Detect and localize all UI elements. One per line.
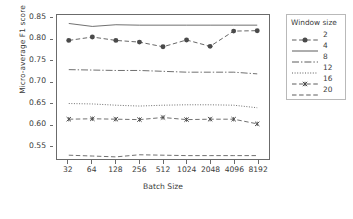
y-tick-mark <box>50 17 54 18</box>
data-point <box>231 29 236 34</box>
data-point <box>137 40 142 45</box>
y-tick: 0.85 <box>0 17 56 18</box>
chart-figure: Micro-average F1 score 0.850.800.750.700… <box>0 0 353 219</box>
data-point <box>90 35 95 40</box>
y-tick: 0.70 <box>0 82 56 83</box>
y-tick: 0.60 <box>0 125 56 126</box>
legend-label: 4 <box>323 41 328 50</box>
legend-swatch-2 <box>290 30 320 40</box>
y-tick-label: 0.70 <box>29 76 46 85</box>
x-tick-mark <box>258 160 259 164</box>
y-tick: 0.75 <box>0 60 56 61</box>
plot-area <box>56 14 270 160</box>
legend-label: 8 <box>323 52 328 61</box>
data-point <box>113 38 118 43</box>
legend-swatch-16 <box>290 74 320 84</box>
plot-lines <box>57 15 269 159</box>
x-tick-mark <box>234 160 235 164</box>
x-tick-mark <box>210 160 211 164</box>
legend-swatch-20 <box>290 85 320 95</box>
y-tick-mark <box>50 39 54 40</box>
series-line-4 <box>69 23 257 26</box>
y-tick-label: 0.85 <box>29 12 46 21</box>
legend-label: 12 <box>323 63 332 72</box>
x-axis-label: Batch Size <box>56 182 270 191</box>
data-point <box>184 38 189 43</box>
y-tick-mark <box>50 103 54 104</box>
legend-swatch-4 <box>290 41 320 51</box>
y-tick: 0.55 <box>0 146 56 147</box>
y-tick-label: 0.75 <box>29 55 46 64</box>
y-tick-label: 0.65 <box>29 98 46 107</box>
data-point <box>161 44 166 49</box>
x-tick-mark <box>115 160 116 164</box>
y-tick-label: 0.55 <box>29 141 46 150</box>
x-tick-label: 8192 <box>238 165 278 174</box>
legend-item-2[interactable]: 2 <box>290 29 342 40</box>
series-line-12 <box>69 104 257 108</box>
legend-entries: 248121620 <box>290 29 342 95</box>
legend-label: 2 <box>323 30 328 39</box>
legend-item-4[interactable]: 4 <box>290 40 342 51</box>
data-point <box>255 28 260 33</box>
data-point <box>66 38 71 43</box>
y-tick: 0.65 <box>0 103 56 104</box>
legend-swatch-12 <box>290 63 320 73</box>
x-tick-mark <box>91 160 92 164</box>
x-tick-mark <box>67 160 68 164</box>
y-tick-label: 0.60 <box>29 119 46 128</box>
x-tick-mark <box>139 160 140 164</box>
y-axis-label: Micro-average F1 score <box>18 0 27 110</box>
data-point <box>255 122 259 126</box>
legend-label: 16 <box>323 74 332 83</box>
x-tick-mark <box>163 160 164 164</box>
legend-label: 20 <box>323 85 332 94</box>
legend-item-8[interactable]: 8 <box>290 51 342 62</box>
legend-item-20[interactable]: 20 <box>290 84 342 95</box>
y-tick-label: 0.80 <box>29 33 46 42</box>
y-tick-mark <box>50 60 54 61</box>
legend-item-12[interactable]: 12 <box>290 62 342 73</box>
series-line-20 <box>69 155 257 157</box>
y-tick-mark <box>50 146 54 147</box>
x-tick-mark <box>186 160 187 164</box>
y-tick-mark <box>50 82 54 83</box>
legend-title: Window size <box>291 18 342 27</box>
legend: Window size 248121620 <box>286 14 346 100</box>
series-line-8 <box>69 70 257 74</box>
y-tick-mark <box>50 125 54 126</box>
y-tick: 0.80 <box>0 39 56 40</box>
legend-swatch-8 <box>290 52 320 62</box>
legend-item-16[interactable]: 16 <box>290 73 342 84</box>
data-point <box>208 44 213 49</box>
